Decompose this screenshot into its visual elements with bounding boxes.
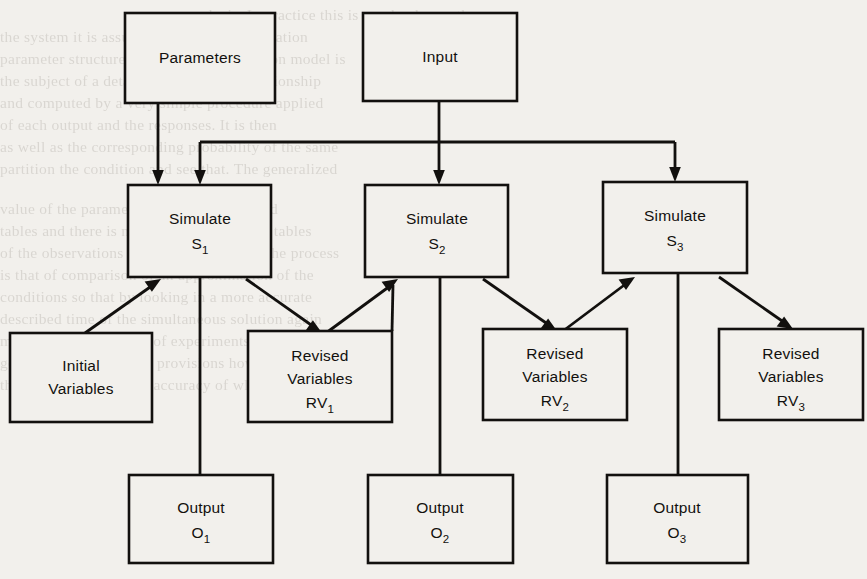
- node-output-2-label: Output: [416, 499, 464, 516]
- node-simulate-1-index: 1: [202, 244, 209, 256]
- svg-text:Revised: Revised: [762, 345, 819, 362]
- simulation-flow-diagram: Parameters Input Simulate S1 Simulate: [0, 0, 867, 579]
- node-output-3-index: 3: [680, 533, 687, 545]
- edge-revised-vars-2-to-simulate-3: [563, 277, 635, 331]
- svg-text:Output: Output: [177, 499, 225, 516]
- node-simulate-2-label: Simulate: [406, 210, 468, 227]
- node-revised-vars-1-index: 1: [328, 403, 335, 415]
- svg-text:Revised: Revised: [291, 347, 348, 364]
- edge-input-bus: [194, 101, 681, 185]
- svg-text:Variables: Variables: [287, 370, 352, 387]
- node-simulate-3-index: 3: [677, 241, 684, 253]
- node-revised-vars-1-line-2: Variables: [287, 370, 352, 387]
- node-simulate-2[interactable]: Simulate S2: [365, 185, 508, 277]
- node-simulate-1-label: Simulate: [169, 210, 231, 227]
- node-revised-vars-3-line-1: Revised: [762, 345, 819, 362]
- node-output-3-label: Output: [653, 499, 701, 516]
- node-simulate-1[interactable]: Simulate S1: [128, 185, 271, 277]
- node-revised-vars-3-symbol: RV: [777, 392, 799, 409]
- node-simulate-2-index: 2: [439, 244, 446, 256]
- svg-text:Simulate: Simulate: [169, 210, 231, 227]
- node-input[interactable]: Input: [363, 13, 517, 101]
- node-output-2-symbol: O: [431, 524, 443, 541]
- edge-simulate-2-to-revised-vars-2: [483, 279, 557, 331]
- svg-text:Simulate: Simulate: [644, 207, 706, 224]
- node-output-3[interactable]: Output O3: [607, 475, 748, 563]
- node-simulate-3-symbol: S: [666, 232, 677, 249]
- svg-text:Parameters: Parameters: [159, 49, 241, 66]
- svg-text:Initial: Initial: [62, 357, 100, 374]
- node-simulate-2-symbol: S: [428, 235, 439, 252]
- svg-text:Input: Input: [422, 48, 458, 65]
- svg-text:Output: Output: [416, 499, 464, 516]
- node-output-1-symbol: O: [192, 524, 204, 541]
- node-simulate-3[interactable]: Simulate S3: [603, 182, 747, 273]
- node-initial-vars[interactable]: Initial Variables: [10, 333, 152, 422]
- node-revised-vars-2-line-1: Revised: [526, 345, 583, 362]
- node-revised-vars-3[interactable]: Revised Variables RV3: [719, 329, 863, 420]
- diagram-page: analysis. In practice this is nearly alw…: [0, 0, 867, 579]
- svg-text:Variables: Variables: [48, 380, 113, 397]
- node-output-1[interactable]: Output O1: [129, 475, 273, 563]
- node-output-1-index: 1: [204, 533, 211, 545]
- node-initial-vars-line-1: Initial: [62, 357, 100, 374]
- edge-simulate-3-to-revised-vars-3: [719, 277, 793, 329]
- node-parameters-label: Parameters: [159, 49, 241, 66]
- node-revised-vars-1-symbol: RV: [306, 394, 328, 411]
- edge-revised-vars-1-to-simulate-2: [326, 279, 398, 333]
- arrowhead-input-to-simulate-3: [669, 167, 681, 182]
- svg-text:Variables: Variables: [758, 368, 823, 385]
- node-revised-vars-2-index: 2: [563, 401, 570, 413]
- node-initial-vars-line-2: Variables: [48, 380, 113, 397]
- node-simulate-3-label: Simulate: [644, 207, 706, 224]
- node-output-1-label: Output: [177, 499, 225, 516]
- node-revised-vars-1[interactable]: Revised Variables RV1: [248, 331, 392, 422]
- arrowhead-input-to-simulate-1: [194, 170, 206, 185]
- node-revised-vars-3-line-2: Variables: [758, 368, 823, 385]
- node-revised-vars-2-symbol: RV: [541, 392, 563, 409]
- svg-text:Simulate: Simulate: [406, 210, 468, 227]
- arrowhead-input-to-simulate-2: [433, 170, 445, 185]
- node-output-2-index: 2: [443, 533, 450, 545]
- node-revised-vars-3-index: 3: [799, 401, 806, 413]
- node-revised-vars-1-line-1: Revised: [291, 347, 348, 364]
- edge-initial-vars-to-simulate-1: [85, 279, 161, 333]
- node-parameters[interactable]: Parameters: [125, 13, 275, 103]
- svg-text:Variables: Variables: [522, 368, 587, 385]
- node-output-2[interactable]: Output O2: [368, 475, 513, 563]
- svg-text:Revised: Revised: [526, 345, 583, 362]
- node-output-3-symbol: O: [668, 524, 680, 541]
- node-input-label: Input: [422, 48, 458, 65]
- edge-simulate-1-to-revised-vars-1: [246, 279, 322, 333]
- node-simulate-1-symbol: S: [191, 235, 202, 252]
- svg-text:Output: Output: [653, 499, 701, 516]
- node-revised-vars-2-line-2: Variables: [522, 368, 587, 385]
- node-revised-vars-2[interactable]: Revised Variables RV2: [483, 329, 627, 420]
- edge-parameters-to-simulate-1: [152, 103, 164, 185]
